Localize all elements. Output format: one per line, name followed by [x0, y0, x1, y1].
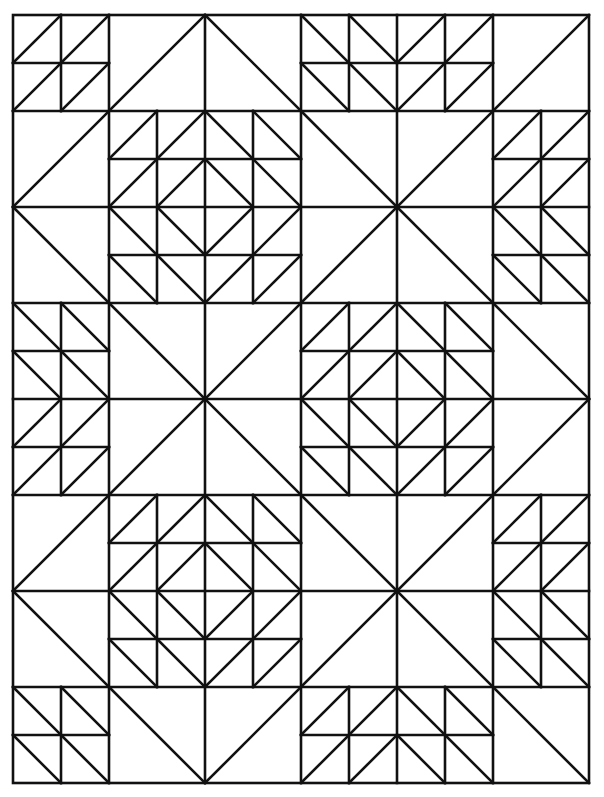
diamond-diagonal [109, 159, 157, 207]
quarter-diagonal [397, 63, 445, 111]
quilt-pattern [0, 0, 604, 797]
cell-diagonal [493, 303, 589, 399]
diamond-diagonal [205, 207, 253, 255]
diamond-diagonal [445, 303, 493, 351]
quilt-lines [13, 15, 589, 783]
quarter-diagonal [61, 399, 109, 447]
quarter-diagonal [541, 591, 589, 639]
cell-diagonal [493, 399, 589, 495]
diamond-diagonal [445, 447, 493, 495]
diamond-diagonal [349, 399, 397, 447]
diamond-diagonal [109, 495, 157, 543]
quarter-diagonal [349, 687, 397, 735]
quarter-diagonal [493, 255, 541, 303]
quarter-diagonal [541, 543, 589, 591]
quarter-diagonal [61, 735, 109, 783]
quarter-diagonal [13, 399, 61, 447]
quarter-diagonal [445, 735, 493, 783]
quarter-diagonal [397, 15, 445, 63]
diamond-diagonal [157, 495, 205, 543]
diamond-diagonal [205, 591, 253, 639]
quarter-diagonal [541, 159, 589, 207]
diamond-diagonal [253, 111, 301, 159]
diamond-diagonal [157, 255, 205, 303]
diamond-diagonal [109, 543, 157, 591]
quarter-diagonal [493, 591, 541, 639]
diamond-diagonal [349, 447, 397, 495]
diamond-diagonal [253, 543, 301, 591]
diamond-diagonal [205, 111, 253, 159]
quarter-diagonal [301, 63, 349, 111]
quarter-diagonal [61, 687, 109, 735]
diamond-diagonal [349, 303, 397, 351]
quarter-diagonal [493, 207, 541, 255]
diamond-diagonal [253, 207, 301, 255]
diamond-diagonal [157, 639, 205, 687]
diamond-diagonal [253, 495, 301, 543]
quarter-diagonal [61, 63, 109, 111]
quarter-diagonal [13, 15, 61, 63]
diamond-diagonal [301, 399, 349, 447]
diamond-diagonal [109, 255, 157, 303]
cell-diagonal [205, 15, 301, 111]
quarter-diagonal [349, 15, 397, 63]
diamond-diagonal [205, 255, 253, 303]
diamond-diagonal [253, 255, 301, 303]
diamond-diagonal [253, 639, 301, 687]
quarter-diagonal [349, 63, 397, 111]
quarter-diagonal [61, 303, 109, 351]
cell-diagonal [13, 591, 109, 687]
quarter-diagonal [13, 63, 61, 111]
quarter-diagonal [493, 639, 541, 687]
cell-diagonal [493, 687, 589, 783]
diamond-diagonal [397, 399, 445, 447]
quarter-diagonal [397, 687, 445, 735]
quarter-diagonal [301, 735, 349, 783]
diamond-diagonal [157, 591, 205, 639]
diamond-diagonal [445, 399, 493, 447]
quarter-diagonal [541, 111, 589, 159]
quarter-diagonal [349, 735, 397, 783]
diamond-diagonal [205, 639, 253, 687]
diamond-diagonal [253, 159, 301, 207]
diamond-diagonal [205, 543, 253, 591]
quarter-diagonal [445, 687, 493, 735]
quarter-diagonal [445, 63, 493, 111]
quarter-diagonal [541, 207, 589, 255]
quarter-diagonal [541, 639, 589, 687]
quarter-diagonal [493, 543, 541, 591]
diamond-diagonal [157, 159, 205, 207]
diamond-diagonal [301, 351, 349, 399]
diamond-diagonal [445, 351, 493, 399]
quarter-diagonal [301, 15, 349, 63]
quarter-diagonal [493, 111, 541, 159]
diamond-diagonal [109, 111, 157, 159]
diamond-diagonal [109, 639, 157, 687]
cell-diagonal [109, 687, 205, 783]
quarter-diagonal [13, 447, 61, 495]
diamond-diagonal [109, 207, 157, 255]
cell-diagonal [493, 15, 589, 111]
quarter-diagonal [61, 351, 109, 399]
diamond-diagonal [205, 495, 253, 543]
cell-diagonal [13, 495, 109, 591]
quarter-diagonal [61, 15, 109, 63]
diamond-diagonal [397, 447, 445, 495]
diamond-diagonal [301, 303, 349, 351]
quarter-diagonal [397, 735, 445, 783]
diamond-diagonal [205, 159, 253, 207]
quarter-diagonal [61, 447, 109, 495]
quarter-diagonal [541, 495, 589, 543]
quarter-diagonal [493, 159, 541, 207]
quarter-diagonal [13, 351, 61, 399]
quarter-diagonal [541, 255, 589, 303]
cell-diagonal [13, 207, 109, 303]
diamond-diagonal [301, 447, 349, 495]
cell-diagonal [109, 15, 205, 111]
diamond-diagonal [157, 207, 205, 255]
cell-diagonal [205, 687, 301, 783]
diamond-diagonal [109, 591, 157, 639]
quarter-diagonal [493, 495, 541, 543]
quarter-diagonal [301, 687, 349, 735]
diamond-diagonal [253, 591, 301, 639]
